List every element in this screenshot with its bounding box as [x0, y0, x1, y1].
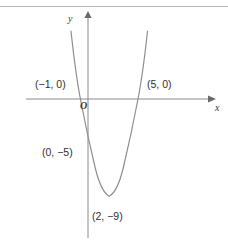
- label-y-intercept: (0, −5): [42, 147, 73, 158]
- figure-container: (−1, 0) (5, 0) (0, −5) (2, −9) y x O: [0, 0, 228, 242]
- label-left-root: (−1, 0): [35, 79, 66, 90]
- label-vertex: (2, −9): [92, 211, 123, 222]
- y-axis-arrowhead: [84, 11, 91, 18]
- parabola-curve: [71, 31, 148, 196]
- parabola-plot: [0, 0, 228, 242]
- x-axis-label: x: [215, 103, 219, 113]
- origin-label: O: [80, 101, 87, 111]
- label-right-root: (5, 0): [147, 79, 172, 90]
- y-axis-label: y: [68, 14, 72, 24]
